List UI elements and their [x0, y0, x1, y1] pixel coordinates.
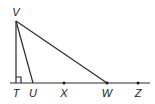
- segment-vw: [16, 21, 107, 83]
- label-x: X: [59, 87, 68, 99]
- geometry-diagram: V T U X W Z: [0, 0, 155, 104]
- label-t: T: [13, 87, 21, 99]
- label-v: V: [12, 6, 21, 18]
- label-u: U: [29, 87, 37, 99]
- point-x: [63, 82, 66, 85]
- label-z: Z: [134, 87, 143, 99]
- point-z: [137, 82, 140, 85]
- point-w: [106, 82, 109, 85]
- right-angle-mark: [16, 77, 21, 83]
- label-w: W: [102, 87, 114, 99]
